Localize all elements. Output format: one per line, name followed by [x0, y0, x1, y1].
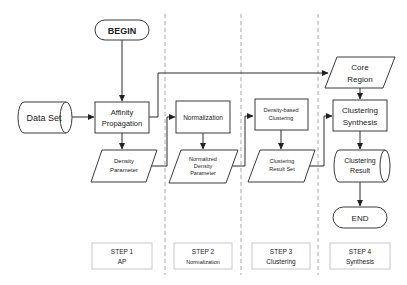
step-2-label: STEP 2 Normalization [174, 243, 232, 269]
svg-text:Synthesis: Synthesis [346, 258, 375, 266]
svg-text:Result Set: Result Set [269, 166, 295, 172]
svg-text:Clustering: Clustering [342, 106, 378, 115]
svg-text:Parameter: Parameter [110, 167, 138, 173]
svg-text:BEGIN: BEGIN [108, 26, 137, 36]
core-region-data: Core Region [325, 57, 395, 88]
normalized-density-parameter-data: Normalized Density Parameter [169, 150, 238, 183]
svg-text:Clustering: Clustering [270, 158, 295, 164]
clustering-result-storage: Clustering Result [334, 150, 390, 182]
affinity-propagation-process: Affinity Propagation [95, 102, 149, 133]
begin-terminal: BEGIN [95, 20, 149, 40]
svg-text:Clustering: Clustering [344, 157, 376, 165]
svg-text:STEP 1: STEP 1 [111, 248, 134, 255]
svg-text:Data Set: Data Set [26, 113, 62, 123]
data-set-storage: Data Set [18, 102, 72, 133]
svg-text:Normalized: Normalized [189, 156, 217, 162]
svg-text:Region: Region [347, 75, 372, 84]
normalization-process: Normalization [176, 101, 230, 133]
flowchart-canvas: BEGIN Data Set Affinity Propagation Dens… [0, 0, 407, 285]
svg-text:Clustering: Clustering [266, 258, 296, 266]
svg-text:STEP 4: STEP 4 [349, 248, 372, 255]
svg-text:STEP 2: STEP 2 [192, 248, 215, 255]
svg-text:Core: Core [351, 63, 369, 72]
svg-text:STEP 3: STEP 3 [270, 248, 293, 255]
step-4-label: STEP 4 Synthesis [330, 243, 390, 269]
svg-text:AP: AP [118, 258, 127, 265]
svg-text:Propagation: Propagation [102, 119, 142, 128]
svg-text:Normalization: Normalization [186, 259, 220, 265]
step-1-label: STEP 1 AP [92, 243, 152, 269]
clustering-result-set-data: Clustering Result Set [248, 150, 315, 182]
svg-text:Affinity: Affinity [111, 108, 134, 117]
svg-text:Density: Density [194, 163, 213, 169]
svg-text:Result: Result [350, 167, 370, 174]
clustering-synthesis-process: Clustering Synthesis [333, 100, 387, 131]
svg-text:Parameter: Parameter [190, 170, 216, 176]
end-terminal: END [333, 207, 387, 228]
svg-text:Normalization: Normalization [183, 114, 223, 121]
svg-text:Density: Density [114, 158, 134, 164]
density-based-clustering-process: Density-based Clustering [255, 99, 308, 130]
step-3-label: STEP 3 Clustering [252, 243, 310, 269]
density-parameter-data: Density Parameter [91, 150, 157, 182]
svg-text:END: END [352, 214, 369, 223]
svg-text:Synthesis: Synthesis [343, 118, 378, 127]
svg-text:Density-based: Density-based [263, 107, 298, 113]
svg-text:Clustering: Clustering [269, 115, 294, 121]
